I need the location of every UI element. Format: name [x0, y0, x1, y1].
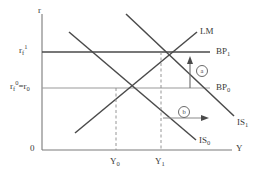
bp1-sub: 1: [227, 50, 230, 57]
rf0-r-sub: 0: [27, 85, 30, 92]
is1-curve: [126, 14, 234, 116]
y1-main: Y: [155, 156, 162, 166]
y-tick-label-rf1: rf1: [19, 46, 27, 55]
bp1-main: BP: [216, 46, 227, 56]
rf0-sub: f: [13, 85, 15, 92]
is1-main: IS: [237, 117, 245, 127]
is0-sub: 0: [207, 139, 210, 146]
annotation-a-badge: a: [196, 65, 208, 77]
y-axis-label: r: [38, 6, 41, 15]
y0-sub: 0: [117, 160, 120, 167]
origin-label: 0: [30, 144, 35, 153]
bp0-main: BP: [216, 82, 227, 92]
rf1-sup: 1: [24, 43, 27, 50]
is0-main: IS: [199, 135, 207, 145]
x-tick-label-y0: Y0: [110, 157, 120, 166]
is1-sub: 1: [245, 121, 248, 128]
lm-main: LM: [200, 26, 214, 36]
curve-label-bp1: BP1: [216, 47, 230, 56]
annotation-a-arrow-head: [187, 56, 193, 64]
curve-label-is1: IS1: [237, 118, 248, 127]
curve-label-bp0: BP0: [216, 83, 230, 92]
annotation-b-arrow-head: [201, 115, 209, 121]
x-axis-label: Y: [236, 144, 243, 153]
y0-main: Y: [110, 156, 117, 166]
curve-label-lm: LM: [200, 27, 214, 36]
rf0-sup: 0: [15, 79, 18, 86]
y1-sub: 1: [162, 160, 165, 167]
x-tick-label-y1: Y1: [155, 157, 165, 166]
rf0-equals-r: =r: [18, 81, 26, 91]
rf1-sub: f: [22, 49, 24, 56]
annotation-b-badge: b: [178, 106, 190, 118]
is-lm-bp-diagram: r Y 0 rf1 rf0=r0 Y0 Y1 LM BP1 BP0 IS1 IS…: [0, 0, 273, 178]
y-tick-label-rf0: rf0=r0: [10, 82, 30, 91]
bp0-sub: 0: [227, 86, 230, 93]
diagram-canvas: [0, 0, 273, 178]
curve-label-is0: IS0: [199, 136, 210, 145]
